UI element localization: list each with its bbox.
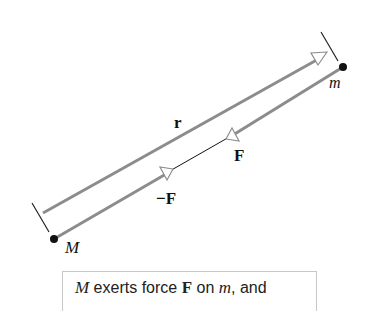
M-label: M xyxy=(65,238,79,258)
mass-m-dot xyxy=(339,63,347,71)
caption-and: , and xyxy=(231,279,267,296)
caption-exerts-force: exerts force xyxy=(89,279,181,296)
negF-vector-line xyxy=(54,174,166,239)
r-end-tick-bottom xyxy=(32,203,49,232)
caption-text: M exerts force F on m, and xyxy=(75,278,267,298)
F-arrowhead-icon xyxy=(226,128,239,141)
r-label: r xyxy=(174,113,182,133)
F-label: F xyxy=(234,146,244,166)
caption-on: on xyxy=(192,279,219,296)
caption-box: M exerts force F on m, and xyxy=(62,271,317,311)
m-label: m xyxy=(329,74,341,92)
caption-m: m xyxy=(219,278,231,297)
connecting-thin-line xyxy=(168,136,231,172)
negF-label: −F xyxy=(156,189,176,209)
mass-M-dot xyxy=(50,235,58,243)
caption-M: M xyxy=(75,278,89,297)
caption-F: F xyxy=(182,278,192,297)
r-vector-line xyxy=(43,57,322,213)
